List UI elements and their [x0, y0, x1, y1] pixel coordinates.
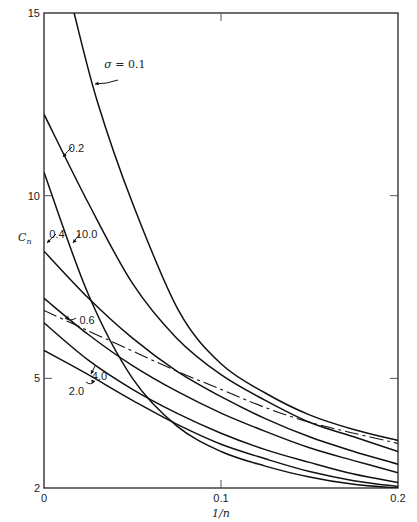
y-tick-label: 15	[28, 7, 40, 19]
curve-labels: σ = 0.10.20.410.00.64.02.0	[47, 58, 145, 397]
y-axis-title: Cn	[18, 231, 32, 246]
arrowhead-icon	[95, 82, 99, 86]
chart: 00.10.2251015 σ = 0.10.20.410.00.64.02.0…	[0, 0, 417, 522]
curve--0.6	[44, 298, 398, 472]
curve--0.2	[44, 114, 398, 451]
x-axis-title: 1/n	[212, 507, 230, 520]
curve-label: σ = 0.1	[104, 58, 145, 71]
curve--0.1	[74, 13, 398, 441]
y-tick-label: 10	[28, 190, 40, 202]
x-tick-label: 0	[41, 492, 47, 504]
curve-label: 0.6	[79, 314, 94, 326]
y-tick-label: 2	[34, 482, 40, 494]
x-tick-label: 0.2	[390, 492, 405, 504]
curve-label: 4.0	[92, 370, 107, 382]
curve--0.4	[44, 251, 398, 464]
curve-label: 10.0	[76, 228, 97, 240]
y-tick-label: 5	[34, 372, 40, 384]
curve-label: 2.0	[69, 385, 84, 397]
x-tick-label: 0.1	[213, 492, 228, 504]
axis-ticks: 00.10.2251015	[28, 7, 406, 504]
